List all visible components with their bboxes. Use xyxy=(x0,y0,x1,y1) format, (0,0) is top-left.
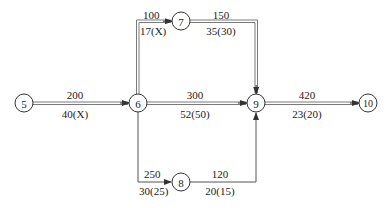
edge-8-9-time: 20(15) xyxy=(205,185,234,197)
edge-5-6 xyxy=(33,102,129,105)
node-7-label: 7 xyxy=(172,15,190,29)
edge-6-7-cost: 100 xyxy=(143,9,160,21)
edge-5-6-cost: 200 xyxy=(67,89,84,101)
node-6-label: 6 xyxy=(129,97,147,111)
edge-5-6-time: 40(X) xyxy=(62,108,88,120)
node-8-label: 8 xyxy=(172,176,190,190)
network-diagram xyxy=(0,0,391,208)
edge-6-9-time: 52(50) xyxy=(180,108,209,120)
edge-6-9 xyxy=(147,102,247,105)
edge-6-8-cost: 250 xyxy=(144,168,161,180)
edge-9-10-cost: 420 xyxy=(299,89,316,101)
node-10-label: 10 xyxy=(359,97,377,111)
edge-7-9-time: 35(30) xyxy=(206,25,235,37)
edge-6-7-time: 17(X) xyxy=(140,25,166,37)
edge-8-9-cost: 120 xyxy=(212,168,229,180)
edge-7-9-cost: 150 xyxy=(213,9,230,21)
edge-6-9-cost: 300 xyxy=(187,89,204,101)
edge-9-10-time: 23(20) xyxy=(292,108,321,120)
node-9-label: 9 xyxy=(247,97,265,111)
edge-9-10 xyxy=(265,102,359,105)
edge-6-8-time: 30(25) xyxy=(139,185,168,197)
node-5-label: 5 xyxy=(15,97,33,111)
